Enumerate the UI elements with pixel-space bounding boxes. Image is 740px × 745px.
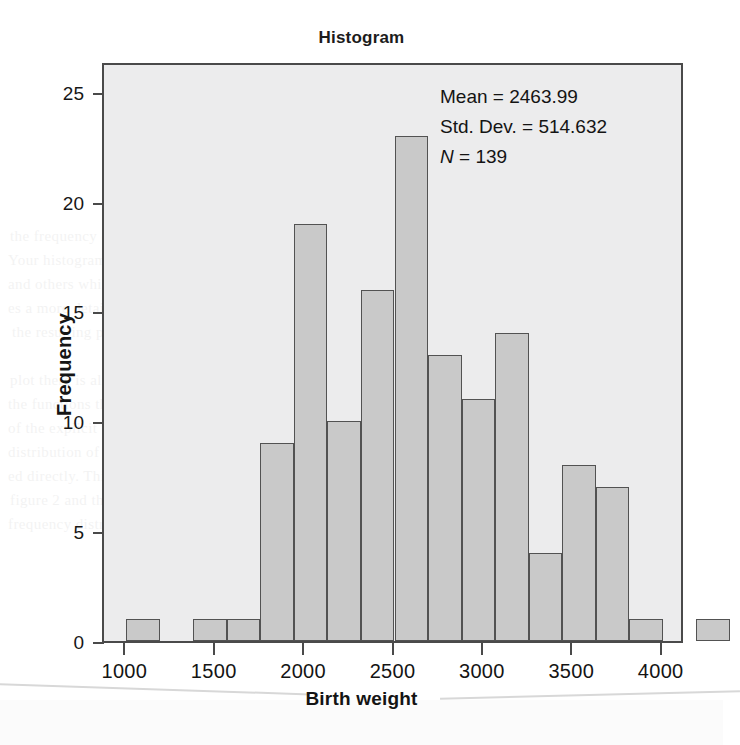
stddev-label: Std. Dev. = 514.632 bbox=[440, 112, 607, 142]
y-axis-tick-label: 10 bbox=[38, 412, 84, 434]
histogram-bar bbox=[395, 136, 429, 641]
histogram-bar bbox=[596, 487, 630, 641]
x-axis-tick bbox=[481, 643, 483, 655]
histogram-bar bbox=[562, 465, 596, 641]
y-axis-tick bbox=[93, 93, 104, 95]
histogram-bar bbox=[361, 290, 395, 642]
n-symbol: N bbox=[440, 146, 454, 167]
histogram-bar bbox=[629, 619, 663, 641]
x-axis-title: Birth weight bbox=[0, 688, 723, 710]
y-axis-tick bbox=[93, 532, 104, 534]
y-axis-title: Frequency bbox=[53, 255, 76, 475]
histogram-bar bbox=[529, 553, 563, 641]
y-axis-tick-label: 20 bbox=[38, 193, 84, 215]
x-axis-tick bbox=[213, 643, 215, 655]
x-axis-tick-label: 2000 bbox=[258, 660, 348, 683]
histogram-bar bbox=[696, 619, 730, 641]
histogram-bar bbox=[428, 355, 462, 641]
histogram-bar bbox=[294, 224, 328, 641]
histogram-bar bbox=[327, 421, 361, 641]
y-axis-tick bbox=[93, 642, 104, 644]
histogram-bar bbox=[227, 619, 261, 641]
x-axis-tick bbox=[660, 643, 662, 655]
x-axis-tick bbox=[570, 643, 572, 655]
histogram-bar bbox=[462, 399, 496, 641]
x-axis-tick-label: 1500 bbox=[169, 660, 259, 683]
histogram-bar bbox=[193, 619, 227, 641]
mean-label: Mean = 2463.99 bbox=[440, 82, 607, 112]
y-axis-tick bbox=[93, 312, 104, 314]
y-axis-tick bbox=[93, 203, 104, 205]
y-axis-tick bbox=[93, 422, 104, 424]
histogram-bar bbox=[126, 619, 160, 641]
y-axis-tick-label: 0 bbox=[38, 632, 84, 654]
y-axis-tick-label: 15 bbox=[38, 302, 84, 324]
x-axis-tick bbox=[123, 643, 125, 655]
x-axis-tick bbox=[302, 643, 304, 655]
x-axis-tick-label: 3000 bbox=[437, 660, 527, 683]
statistics-annotation: Mean = 2463.99 Std. Dev. = 514.632 N = 1… bbox=[440, 82, 607, 172]
n-label: N = 139 bbox=[440, 142, 607, 172]
x-axis-tick-label: 2500 bbox=[348, 660, 438, 683]
x-axis-tick-label: 4000 bbox=[616, 660, 706, 683]
y-axis-tick-label: 5 bbox=[38, 522, 84, 544]
x-axis-tick-label: 1000 bbox=[79, 660, 169, 683]
page-title: Histogram bbox=[0, 28, 723, 48]
histogram-bar bbox=[495, 333, 529, 641]
n-value: = 139 bbox=[454, 146, 507, 167]
y-axis-tick-label: 25 bbox=[38, 83, 84, 105]
x-axis-tick bbox=[392, 643, 394, 655]
x-axis-tick-label: 3500 bbox=[526, 660, 616, 683]
histogram-bar bbox=[260, 443, 294, 641]
